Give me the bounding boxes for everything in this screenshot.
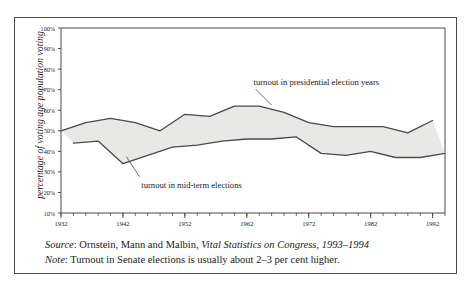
x-tick-label: 1992 <box>426 220 439 227</box>
y-tick-label: 100% <box>41 25 55 32</box>
y-tick-label: 20% <box>44 189 55 196</box>
y-tick-label: 30% <box>44 168 55 175</box>
midterm-annotation-label: turnout in mid-term elections <box>141 180 242 190</box>
y-tick-label: 50% <box>44 127 55 134</box>
source-title: Vital Statistics on Congress, 1993–1994 <box>201 239 369 250</box>
y-tick-label: 40% <box>44 148 55 155</box>
y-tick-label: 70% <box>44 86 55 93</box>
presidential-annotation-label: turnout in presidential election years <box>254 77 380 87</box>
x-tick-label: 1972 <box>302 220 315 227</box>
source-label: Source <box>45 239 74 250</box>
note-text: : Turnout in Senate elections is usually… <box>65 254 340 265</box>
y-tick-label: 60% <box>44 107 55 114</box>
x-tick-label: 1932 <box>54 220 67 227</box>
x-tick-label: 1952 <box>178 220 191 227</box>
x-tick-label: 1942 <box>116 220 129 227</box>
figure-frame: percentage of voting age population voti… <box>14 17 457 274</box>
note-line: Note: Turnout in Senate elections is usu… <box>45 252 445 267</box>
y-tick-label: 10% <box>44 210 55 217</box>
y-tick-label: 90% <box>44 45 55 52</box>
x-tick-label: 1962 <box>240 220 253 227</box>
turnout-area-chart: 10%20%30%40%50%60%70%80%90%100%193219421… <box>15 18 458 238</box>
chart-plot-area: percentage of voting age population voti… <box>15 18 458 238</box>
source-line: Source: Ornstein, Mann and Malbin, Vital… <box>45 237 445 252</box>
note-label: Note <box>45 254 65 265</box>
figure-footnotes: Source: Ornstein, Mann and Malbin, Vital… <box>45 237 445 267</box>
source-text: : Ornstein, Mann and Malbin, <box>74 239 201 250</box>
y-tick-label: 80% <box>44 66 55 73</box>
x-tick-label: 1982 <box>364 220 377 227</box>
